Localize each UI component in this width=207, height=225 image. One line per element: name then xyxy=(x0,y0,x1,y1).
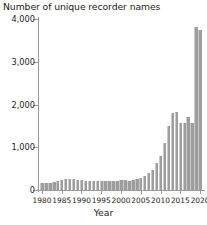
bar xyxy=(88,181,91,190)
y-tick-label: 4,000 xyxy=(12,14,38,24)
bar xyxy=(171,113,174,190)
bar xyxy=(76,180,79,190)
x-tick-mark xyxy=(141,190,142,194)
bar xyxy=(143,176,146,190)
y-tick-label: 3,000 xyxy=(12,57,38,67)
y-tick-label: 1,000 xyxy=(12,142,38,152)
x-tick-label: 1990 xyxy=(72,196,91,205)
x-tick-label: 2010 xyxy=(151,196,170,205)
bar xyxy=(44,183,47,190)
x-tick-label: 1980 xyxy=(33,196,52,205)
bar xyxy=(111,181,114,190)
x-tick-label: 2020 xyxy=(191,196,207,205)
x-tick-label: 2005 xyxy=(131,196,150,205)
bar xyxy=(159,156,162,190)
bar xyxy=(68,179,71,190)
bar xyxy=(115,181,118,190)
bar xyxy=(183,123,186,190)
bar xyxy=(139,178,142,190)
bar xyxy=(72,179,75,190)
chart-figure: Number of unique recorder names 01,0002,… xyxy=(0,0,207,225)
bar xyxy=(80,180,83,190)
bar xyxy=(155,163,158,190)
bar xyxy=(103,181,106,190)
bar xyxy=(163,143,166,190)
x-tick-mark xyxy=(200,190,201,194)
x-tick-mark xyxy=(62,190,63,194)
bar xyxy=(64,179,67,190)
x-tick-mark xyxy=(42,190,43,194)
bar xyxy=(56,181,59,190)
x-tick-label: 1995 xyxy=(92,196,111,205)
bar xyxy=(167,126,170,190)
x-tick-label: 1985 xyxy=(52,196,71,205)
bar xyxy=(190,123,193,190)
x-tick-mark xyxy=(121,190,122,194)
bar xyxy=(194,27,197,190)
chart-title: Number of unique recorder names xyxy=(3,1,160,12)
x-tick-mark xyxy=(161,190,162,194)
bar xyxy=(100,181,103,190)
bar xyxy=(131,180,134,190)
bar xyxy=(60,180,63,190)
bar xyxy=(84,181,87,190)
bar xyxy=(92,181,95,190)
bar xyxy=(107,181,110,190)
bar xyxy=(40,183,43,190)
x-tick-label: 2015 xyxy=(171,196,190,205)
bar xyxy=(175,112,178,190)
bar xyxy=(123,180,126,190)
x-tick-mark xyxy=(180,190,181,194)
x-tick-label: 2000 xyxy=(112,196,131,205)
y-tick-label: 0 xyxy=(30,185,38,195)
bar xyxy=(119,180,122,190)
bar xyxy=(151,170,154,190)
bar xyxy=(147,173,150,190)
bar xyxy=(48,183,51,190)
bar xyxy=(127,181,130,190)
x-tick-mark xyxy=(81,190,82,194)
x-axis-title: Year xyxy=(0,207,207,218)
bar xyxy=(186,117,189,190)
bar xyxy=(135,179,138,190)
bar xyxy=(198,30,201,190)
bar xyxy=(179,123,182,190)
x-tick-mark xyxy=(101,190,102,194)
bar xyxy=(52,182,55,190)
plot-area xyxy=(38,19,204,190)
bar xyxy=(96,181,99,190)
y-tick-label: 2,000 xyxy=(12,100,38,110)
